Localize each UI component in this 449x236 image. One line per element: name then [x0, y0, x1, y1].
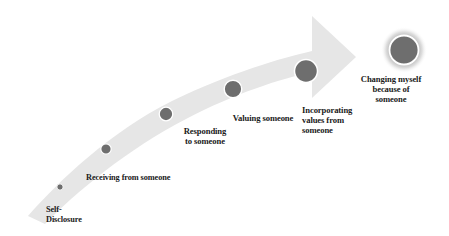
stage-node-6: [390, 36, 419, 65]
stage-label-changing-myself-because-of-someone: Changing myself because of someone: [348, 74, 434, 104]
stage-node-5: [295, 60, 318, 83]
stage-node-1: [57, 184, 63, 190]
stage-node-2: [101, 144, 111, 154]
stage-label-incorporating-values-from-someone: Incorporating values from someone: [302, 105, 370, 135]
stage-node-4: [224, 80, 242, 98]
diagram-canvas: Self- Disclosure Receiving from someone …: [0, 0, 449, 236]
stage-node-group: [57, 27, 427, 190]
stage-label-self-disclosure: Self- Disclosure: [46, 205, 118, 225]
stage-node-3: [159, 107, 173, 121]
stage-label-responding-to-someone: Responding to someone: [170, 126, 240, 146]
stage-label-valuing-someone: Valuing someone: [224, 113, 302, 123]
stage-label-receiving-from-someone: Receiving from someone: [86, 173, 216, 183]
